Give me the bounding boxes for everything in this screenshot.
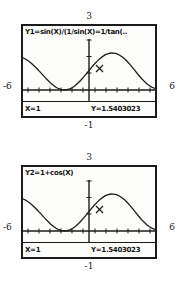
calculator-screen-2[interactable]: Y2=1+cos(X) X=1 Y=1.5403023 <box>21 165 157 259</box>
trace-y-value-1: Y=1.5403023 <box>91 102 140 116</box>
equation-label-1: Y1=sin(X)/(1/sin(X)=1/tan(.. <box>23 26 155 39</box>
y-min-label-1: -1 <box>0 120 178 130</box>
plot-area-1: Y1=sin(X)/(1/sin(X)=1/tan(.. X=1 Y=1.540… <box>23 26 155 116</box>
calculator-panel-1: 3 -6 6 -1 <box>0 0 178 141</box>
trace-x-value-1: X=1 <box>25 102 40 116</box>
equation-label-2: Y2=1+cos(X) <box>23 167 155 180</box>
calculator-panel-2: 3 -6 6 -1 <box>0 141 178 282</box>
trace-cursor-1 <box>96 65 103 72</box>
y-max-label-2: 3 <box>0 152 178 162</box>
y-min-label-2: -1 <box>0 261 178 271</box>
calculator-screen-1[interactable]: Y1=sin(X)/(1/sin(X)=1/tan(.. X=1 Y=1.540… <box>21 24 157 118</box>
y-max-label-1: 3 <box>0 11 178 21</box>
x-min-label-2: -6 <box>3 222 12 232</box>
x-max-label-2: 6 <box>169 222 175 232</box>
x-min-label-1: -6 <box>3 81 12 91</box>
x-max-label-1: 6 <box>169 81 175 91</box>
trace-y-value-2: Y=1.5403023 <box>91 243 140 257</box>
plot-area-2: Y2=1+cos(X) X=1 Y=1.5403023 <box>23 167 155 257</box>
trace-status-bar-1: X=1 Y=1.5403023 <box>23 102 155 116</box>
trace-status-bar-2: X=1 Y=1.5403023 <box>23 243 155 257</box>
trace-x-value-2: X=1 <box>25 243 40 257</box>
trace-cursor-2 <box>96 206 103 213</box>
calculator-screens-page: 3 -6 6 -1 <box>0 0 178 282</box>
